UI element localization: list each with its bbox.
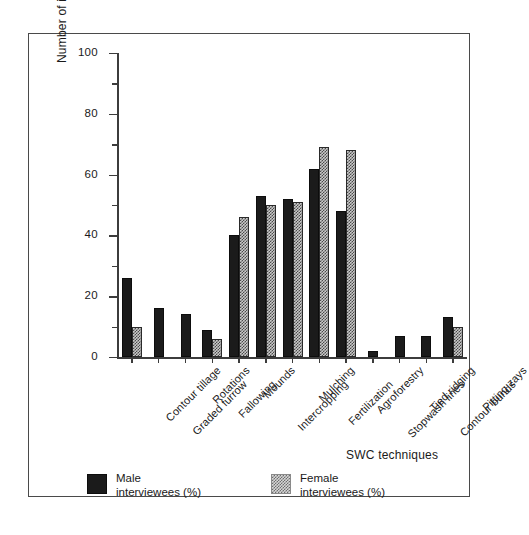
bar-male[interactable] bbox=[309, 169, 319, 357]
y-axis-title: Number of interviewees (%) by gender bbox=[55, 0, 69, 63]
x-tick bbox=[185, 357, 186, 363]
bar-group[interactable] bbox=[333, 53, 360, 357]
y-tick-major: 80 bbox=[109, 114, 117, 115]
bar-group[interactable] bbox=[119, 53, 146, 357]
x-tick-label: Pitting zays bbox=[480, 364, 529, 413]
bar-group[interactable] bbox=[145, 53, 172, 357]
bar-female[interactable] bbox=[346, 150, 356, 357]
x-axis-title: SWC techniques bbox=[346, 448, 438, 462]
bar-male[interactable] bbox=[256, 196, 266, 357]
y-tick-minor bbox=[112, 266, 117, 267]
x-tick bbox=[399, 357, 400, 363]
legend-label-male: Male interviewees (%) bbox=[116, 472, 201, 499]
bar-male[interactable] bbox=[122, 278, 132, 357]
bar-male[interactable] bbox=[154, 308, 164, 357]
bar-female[interactable] bbox=[293, 202, 303, 357]
y-tick-label: 100 bbox=[78, 47, 98, 59]
y-tick-label: 20 bbox=[85, 290, 98, 302]
y-tick-minor bbox=[112, 205, 117, 206]
bar-male[interactable] bbox=[229, 235, 239, 357]
bar-group[interactable] bbox=[199, 53, 226, 357]
y-tick-minor bbox=[112, 83, 117, 84]
chart-legend: Male interviewees (%) Female interviewee… bbox=[87, 472, 385, 499]
y-tick-minor bbox=[112, 327, 117, 328]
bar-female[interactable] bbox=[319, 147, 329, 357]
x-tick bbox=[372, 357, 373, 363]
bar-male[interactable] bbox=[443, 317, 453, 357]
y-tick-label: 80 bbox=[85, 108, 98, 120]
bar-group[interactable] bbox=[359, 53, 386, 357]
y-tick-minor bbox=[112, 144, 117, 145]
chart-plot-area: Number of interviewees (%) by gender 020… bbox=[117, 53, 467, 377]
legend-item-male: Male interviewees (%) bbox=[87, 472, 201, 499]
bar-group[interactable] bbox=[413, 53, 440, 357]
bar-group[interactable] bbox=[440, 53, 467, 357]
bar-male[interactable] bbox=[421, 336, 431, 357]
x-tick bbox=[212, 357, 213, 363]
bar-group[interactable] bbox=[252, 53, 279, 357]
x-tick bbox=[345, 357, 346, 363]
y-tick-major: 0 bbox=[109, 357, 117, 358]
x-tick bbox=[292, 357, 293, 363]
x-tick bbox=[238, 357, 239, 363]
bar-female[interactable] bbox=[239, 217, 249, 357]
bar-group[interactable] bbox=[279, 53, 306, 357]
bar-group[interactable] bbox=[306, 53, 333, 357]
bar-group[interactable] bbox=[226, 53, 253, 357]
y-tick-major: 40 bbox=[109, 235, 117, 236]
y-tick-major: 20 bbox=[109, 296, 117, 297]
bar-male[interactable] bbox=[336, 211, 346, 357]
bar-male[interactable] bbox=[395, 336, 405, 357]
x-tick bbox=[452, 357, 453, 363]
bar-group[interactable] bbox=[172, 53, 199, 357]
bar-female[interactable] bbox=[132, 327, 142, 357]
bar-male[interactable] bbox=[202, 330, 212, 357]
bar-male[interactable] bbox=[283, 199, 293, 357]
legend-swatch-female-icon bbox=[271, 474, 291, 494]
bar-female[interactable] bbox=[453, 327, 463, 357]
x-tick bbox=[426, 357, 427, 363]
x-tick bbox=[131, 357, 132, 363]
x-tick bbox=[265, 357, 266, 363]
bar-male[interactable] bbox=[181, 314, 191, 357]
legend-item-female: Female interviewees (%) bbox=[271, 472, 385, 499]
bar-female[interactable] bbox=[266, 205, 276, 357]
x-tick bbox=[319, 357, 320, 363]
bar-series-container bbox=[119, 53, 467, 357]
y-tick-label: 40 bbox=[85, 229, 98, 241]
x-tick bbox=[158, 357, 159, 363]
legend-label-female: Female interviewees (%) bbox=[300, 472, 385, 499]
y-tick-major: 100 bbox=[109, 53, 117, 54]
y-tick-label: 0 bbox=[91, 351, 98, 363]
y-tick-label: 60 bbox=[85, 169, 98, 181]
bar-female[interactable] bbox=[212, 339, 222, 357]
bar-group[interactable] bbox=[386, 53, 413, 357]
y-tick-major: 60 bbox=[109, 175, 117, 176]
figure-frame: Number of interviewees (%) by gender 020… bbox=[28, 33, 470, 497]
legend-swatch-male-icon bbox=[87, 474, 107, 494]
